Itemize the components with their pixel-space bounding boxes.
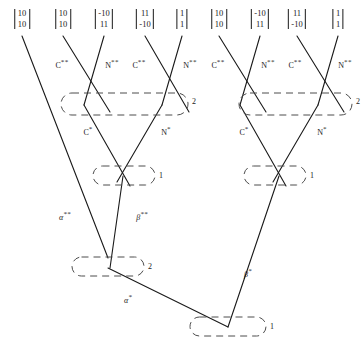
edge-label-superscript: ** xyxy=(189,58,197,66)
state-matrix: 11 xyxy=(332,8,343,29)
edge-label: C** xyxy=(56,58,69,70)
edge-label: C* xyxy=(83,125,92,137)
matrix-cell-bottom: 10 xyxy=(59,19,68,30)
edge-label: N** xyxy=(183,58,196,70)
matrix-cell-bottom: -10 xyxy=(291,19,302,30)
matrix-cell-top: 11 xyxy=(141,8,149,19)
edge-label-superscript: ** xyxy=(217,58,225,66)
matrix-cells: 11-10 xyxy=(137,8,153,29)
matrix-cell-top: 1 xyxy=(180,8,184,19)
matrix-bar-right xyxy=(305,9,306,29)
edge-label: C** xyxy=(212,58,225,70)
edge-label-superscript: * xyxy=(89,125,93,133)
matrix-cells: -1011 xyxy=(96,8,112,29)
edge-label-superscript: ** xyxy=(63,210,71,218)
edge-label-superscript: ** xyxy=(111,58,119,66)
matrix-bar-right xyxy=(226,9,227,29)
state-matrix: -1011 xyxy=(251,8,269,29)
edge-label-superscript: ** xyxy=(344,58,352,66)
matrix-cells: 11 xyxy=(333,8,342,29)
matrix-bar-right xyxy=(112,9,113,29)
edge-label-superscript: * xyxy=(167,125,171,133)
edge-label: β** xyxy=(136,210,148,222)
state-matrix: 1010 xyxy=(14,8,30,29)
capsule-index-label: 1 xyxy=(310,171,314,180)
matrix-cell-bottom: 1 xyxy=(336,19,340,30)
edge-label-superscript: ** xyxy=(61,58,69,66)
matrix-cell-bottom: 1 xyxy=(180,19,184,30)
matrix-cell-bottom: -10 xyxy=(139,19,150,30)
matrix-bar-right xyxy=(343,9,344,29)
edge-label-superscript: ** xyxy=(140,210,148,218)
dashed-capsule xyxy=(190,317,266,336)
figure-canvas: 10101010-101111-10111010-101111-1011 C**… xyxy=(0,0,361,350)
matrix-cells: 11-10 xyxy=(289,8,305,29)
matrix-cells: 1010 xyxy=(15,8,29,29)
matrix-cell-top: 1 xyxy=(336,8,340,19)
capsule-index-label: 2 xyxy=(356,97,360,106)
matrix-cell-top: 10 xyxy=(18,8,27,19)
matrix-bar-right xyxy=(268,9,269,29)
dashed-capsule xyxy=(61,93,188,115)
capsules-layer xyxy=(0,0,361,350)
edge-label: N* xyxy=(161,125,171,137)
edge-label-superscript: * xyxy=(128,293,132,301)
capsule-index-label: 2 xyxy=(148,262,152,271)
capsule-index-label: 1 xyxy=(159,171,163,180)
edge-label: N** xyxy=(338,58,351,70)
matrix-bar-right xyxy=(70,9,71,29)
matrix-cell-top: -10 xyxy=(98,8,109,19)
state-matrix: 11-10 xyxy=(136,8,154,29)
edge-label-superscript: ** xyxy=(294,58,302,66)
edge-label: N** xyxy=(261,58,274,70)
matrix-cell-top: 11 xyxy=(293,8,301,19)
edge-label: β* xyxy=(244,267,252,279)
state-matrix: -1011 xyxy=(95,8,113,29)
matrix-cells: 1010 xyxy=(212,8,226,29)
edge-label-superscript: ** xyxy=(138,58,146,66)
dashed-capsule xyxy=(93,166,155,185)
state-matrix: 1010 xyxy=(211,8,227,29)
edge-label-superscript: * xyxy=(323,125,327,133)
edge-label: α** xyxy=(59,210,71,222)
matrix-cells: -1011 xyxy=(252,8,268,29)
capsule-index-label: 2 xyxy=(192,97,196,106)
edge-label-superscript: ** xyxy=(267,58,275,66)
edge-label-superscript: * xyxy=(248,267,252,275)
edge-label: C** xyxy=(289,58,302,70)
matrix-cell-top: 10 xyxy=(59,8,68,19)
edge-label-superscript: * xyxy=(245,125,249,133)
state-matrix: 1010 xyxy=(55,8,71,29)
matrix-bar-right xyxy=(187,9,188,29)
matrix-bar-right xyxy=(29,9,30,29)
state-matrix: 11-10 xyxy=(288,8,306,29)
edge-label: C** xyxy=(133,58,146,70)
capsule-index-label: 1 xyxy=(270,322,274,331)
matrix-cells: 1010 xyxy=(56,8,70,29)
dashed-capsule xyxy=(244,166,306,185)
matrix-cell-bottom: 11 xyxy=(256,19,264,30)
matrix-cell-bottom: 10 xyxy=(18,19,27,30)
state-matrix: 11 xyxy=(176,8,187,29)
edge-label: N** xyxy=(105,58,118,70)
dashed-capsule xyxy=(72,257,144,276)
matrix-cells: 11 xyxy=(177,8,186,29)
matrix-cell-bottom: 11 xyxy=(100,19,108,30)
matrix-cell-top: -10 xyxy=(254,8,265,19)
edge-label: C* xyxy=(239,125,248,137)
matrix-cell-bottom: 10 xyxy=(215,19,224,30)
matrix-bar-right xyxy=(153,9,154,29)
matrix-cell-top: 10 xyxy=(215,8,224,19)
edge-label: α* xyxy=(124,293,132,305)
dashed-capsule xyxy=(239,93,352,115)
edge-label: N* xyxy=(317,125,327,137)
